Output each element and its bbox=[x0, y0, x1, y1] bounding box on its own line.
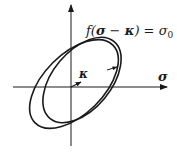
kappa-label: κ bbox=[78, 67, 88, 81]
yield-equation: f(σ − κ) = σ0 bbox=[85, 23, 174, 40]
kappa-arrow bbox=[71, 82, 81, 87]
offset-arrow bbox=[107, 67, 117, 70]
outer-ellipse bbox=[14, 24, 134, 144]
sigma-axis-label: σ bbox=[158, 69, 168, 84]
yield-surface-diagram: f(σ − κ) = σ0 κ σ bbox=[0, 0, 177, 153]
